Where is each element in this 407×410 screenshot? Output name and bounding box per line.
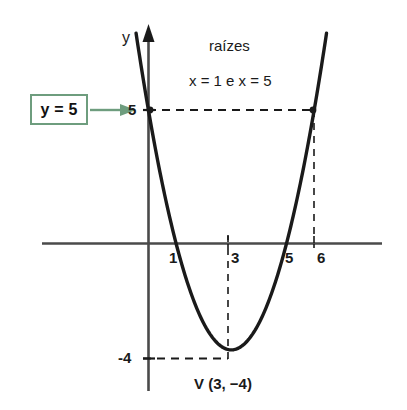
figure-container: y = 5 y 5 -4 1 3 5 6 raízes x = 1 e x = … [0,0,407,410]
y-axis-arrow-icon [143,24,155,42]
y-axis-name: y [122,30,130,46]
x-tick-label-5: 5 [285,250,293,265]
y-equals-5-callout-label: y = 5 [40,101,77,119]
y-equals-5-callout[interactable]: y = 5 [30,94,88,125]
vertex-label: V (3, −4) [194,376,252,391]
point-y5-left [147,107,154,114]
parabola-chart [0,0,407,410]
y-tick-label-minus4: -4 [118,350,131,365]
roots-title: raízes [209,38,250,53]
point-y5-right [310,107,317,114]
x-tick-label-3: 3 [231,250,239,265]
x-tick-label-1: 1 [169,250,177,265]
y-tick-label-5: 5 [128,102,136,117]
roots-values: x = 1 e x = 5 [189,73,272,88]
x-tick-label-6: 6 [317,250,325,265]
